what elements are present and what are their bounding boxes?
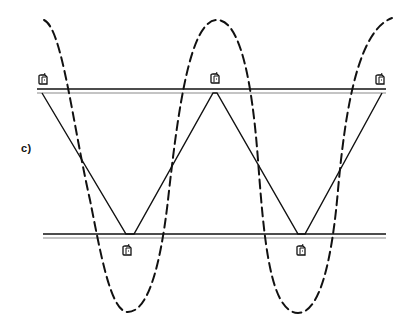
cube-marker-lower-left-icon [123,244,131,255]
upper-rail [37,89,386,93]
panel-label: c) [21,142,32,154]
diagram-figure: c) [0,0,409,333]
markers-group [39,72,384,255]
cube-marker-lower-right-icon [297,244,305,255]
rails-group [37,89,386,238]
cube-marker-upper-left-icon [39,73,47,84]
cube-marker-upper-middle-icon [211,72,219,83]
dashed-wave-curve [44,18,392,313]
lower-rail [43,234,386,238]
diagram-canvas [0,0,409,333]
cube-marker-upper-right-icon [376,73,384,84]
